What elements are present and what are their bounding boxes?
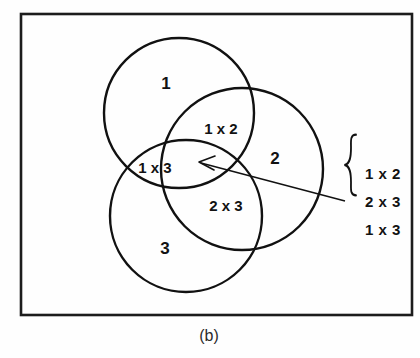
legend-item-2: 2 x 3: [365, 194, 401, 209]
circle-set-1: [104, 38, 254, 188]
legend-curly-brace: [345, 135, 356, 196]
circle-set-3: [110, 140, 262, 292]
figure-frame: [21, 14, 412, 315]
figure-container: 1 2 3 1 x 2 1 x 3 2 x 3 1 x 2 2 x 3 1 x …: [0, 0, 420, 358]
circle-set-2: [161, 88, 323, 250]
figure-caption: (b): [199, 328, 219, 344]
label-set-3: 3: [160, 240, 169, 257]
label-intersection-1-2: 1 x 2: [204, 121, 237, 136]
label-intersection-1-3: 1 x 3: [138, 160, 171, 175]
legend-item-1: 1 x 2: [365, 166, 401, 181]
legend-item-3: 1 x 3: [365, 222, 401, 237]
label-set-1: 1: [161, 75, 170, 92]
callout-arrowhead: [199, 156, 215, 170]
label-intersection-2-3: 2 x 3: [209, 198, 242, 213]
label-set-2: 2: [270, 150, 279, 167]
venn-diagram-svg: [0, 0, 420, 358]
